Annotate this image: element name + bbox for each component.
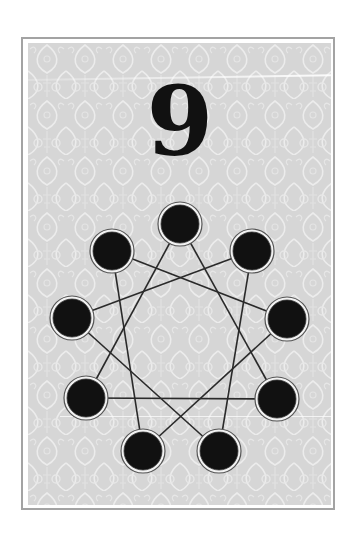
star-edge xyxy=(219,251,252,451)
star-node-bottom-left xyxy=(121,429,165,473)
nine-point-star-diagram xyxy=(0,0,357,541)
star-node-left xyxy=(50,296,94,340)
star-nodes xyxy=(50,202,309,473)
star-edge xyxy=(86,398,277,399)
star-node-top xyxy=(158,202,202,246)
star-edge xyxy=(112,251,143,451)
star-node-right xyxy=(265,297,309,341)
star-node-lower-right xyxy=(255,377,299,421)
star-node-upper-right xyxy=(230,229,274,273)
star-node-upper-left xyxy=(90,229,134,273)
star-node-lower-left xyxy=(64,376,108,420)
star-node-bottom-right xyxy=(197,429,241,473)
